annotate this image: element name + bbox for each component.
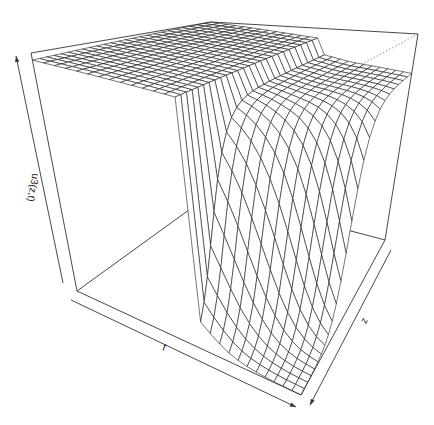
u-axis-arrow: [16, 56, 63, 283]
u-axis-arrow-head: [15, 56, 19, 62]
t-axis-arrow-head: [290, 402, 296, 407]
z-axis-label: u3(z,t): [26, 173, 42, 203]
surface-plot: t z u3(z,t): [0, 0, 434, 425]
z-axis-arrow-head: [310, 399, 315, 405]
wireframe-surface: [32, 22, 411, 395]
y-axis-label: z: [358, 316, 370, 326]
